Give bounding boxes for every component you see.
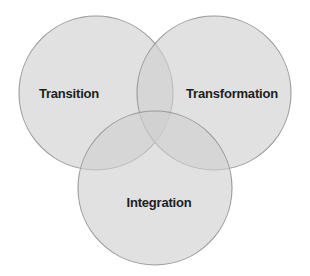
venn-label-transition: Transition [39, 86, 99, 101]
venn-diagram: Transition Transformation Integration [0, 0, 310, 276]
venn-label-transformation: Transformation [186, 86, 278, 101]
venn-circles-canvas [0, 0, 310, 276]
venn-label-integration: Integration [127, 195, 192, 210]
venn-circle-integration[interactable] [78, 111, 232, 265]
